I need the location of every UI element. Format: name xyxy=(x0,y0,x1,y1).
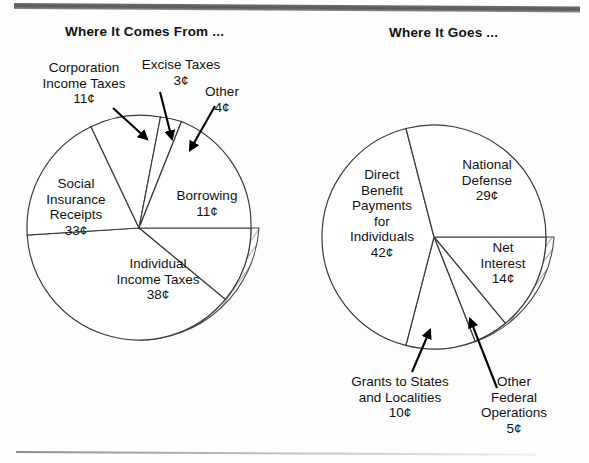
label-other-federal-operations: Other Federal Operations 5¢ xyxy=(464,374,564,436)
left-chart-title: Where It Comes From ... xyxy=(65,24,224,39)
label-corporation-income-taxes: Corporation Income Taxes 11¢ xyxy=(24,60,144,107)
label-other: Other 4¢ xyxy=(196,84,248,115)
label-grants-to-states: Grants to States and Localities 10¢ xyxy=(340,374,460,421)
figure-page: Where It Comes From ... Where It Goes ..… xyxy=(0,0,589,463)
arrow-grants-to-states xyxy=(412,330,430,372)
right-chart-title: Where It Goes ... xyxy=(389,25,498,40)
label-borrowing: Borrowing 11¢ xyxy=(163,188,251,219)
scan-artifact-bottom-line xyxy=(16,451,536,456)
label-individual-income-taxes: Individual Income Taxes 38¢ xyxy=(103,256,213,303)
arrow-excise-taxes xyxy=(160,92,172,139)
label-direct-benefit-payments: Direct Benefit Payments for Individuals … xyxy=(340,167,424,260)
label-social-insurance-receipts: Social Insurance Receipts 33¢ xyxy=(32,176,120,238)
label-net-interest: Net Interest 14¢ xyxy=(470,240,536,287)
arrow-corporation-income-taxes xyxy=(113,108,147,139)
scan-artifact-top-bar xyxy=(14,3,580,12)
label-national-defense: National Defense 29¢ xyxy=(447,157,527,204)
